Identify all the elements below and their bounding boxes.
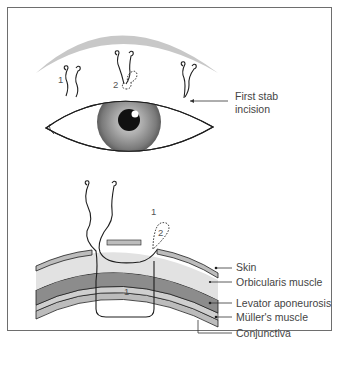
label-skin: Skin <box>236 261 257 273</box>
suture-number-2: 2 <box>113 79 118 90</box>
skin-middle <box>107 240 141 245</box>
suture-number-1: 1 <box>58 74 63 85</box>
incision-label: incision <box>235 103 270 115</box>
first-stab-label: First stab <box>235 90 278 102</box>
suture-bottom-number-1: 1 <box>151 206 156 217</box>
suture-bottom-number-2: 2 <box>158 227 163 238</box>
eyelid-diagram: 1 2 First stab incision 1 2 1 <box>0 0 343 368</box>
suture-2-loop <box>122 71 137 89</box>
pupil-highlight <box>132 111 139 118</box>
label-orbicularis: Orbicularis muscle <box>236 276 323 288</box>
suture-3-top <box>181 62 196 98</box>
eyebrow-shape <box>36 36 218 74</box>
label-levator: Levator aponeurosis <box>236 297 331 309</box>
suture-1-top <box>64 66 80 97</box>
label-conjunctiva: Conjunctiva <box>236 327 291 339</box>
suture-bite-number-1: 1 <box>124 286 129 297</box>
label-muller: Müller's muscle <box>236 311 308 323</box>
